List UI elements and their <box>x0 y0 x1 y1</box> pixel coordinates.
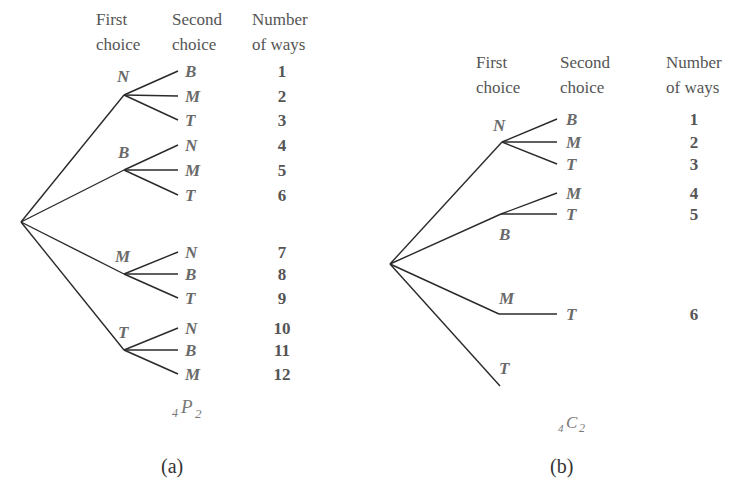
diagram-a-headers: First choice Second choice Number of way… <box>96 10 308 54</box>
first-branch-line <box>390 214 501 264</box>
number-of-ways: 4 <box>278 136 287 155</box>
first-branch-line <box>390 264 499 314</box>
number-of-ways: 8 <box>278 265 287 284</box>
header-first-choice-line2: choice <box>476 78 520 97</box>
first-branch-line <box>21 170 124 222</box>
number-of-ways: 3 <box>690 155 699 174</box>
number-of-ways: 1 <box>690 110 699 129</box>
first-choice-label: M <box>114 247 131 266</box>
diagram-b-headers: First choice Second choice Number of way… <box>476 53 722 97</box>
number-of-ways: 2 <box>278 87 287 106</box>
formula-a-prefix: 4 <box>172 406 178 420</box>
first-choice-label: B <box>117 143 129 162</box>
header-second-choice-line2: choice <box>560 78 604 97</box>
caption-a: (a) <box>161 455 183 478</box>
second-choice-label: M <box>565 184 582 203</box>
header-number-of-ways-line2: of ways <box>252 35 305 54</box>
first-choice-label: T <box>499 359 510 378</box>
first-choice-label: T <box>118 323 129 342</box>
first-branch-line <box>21 95 124 222</box>
second-choice-label: M <box>565 133 582 152</box>
number-of-ways: 5 <box>690 205 699 224</box>
formula-b-suffix: 2 <box>579 421 585 435</box>
second-choice-label: B <box>184 62 196 81</box>
number-of-ways: 6 <box>278 186 287 205</box>
number-of-ways: 7 <box>278 243 287 262</box>
second-choice-label: B <box>184 341 196 360</box>
second-branch-line <box>124 145 178 170</box>
header-number-of-ways-line1: Number <box>666 53 722 72</box>
formula-a-symbol: P <box>180 396 193 417</box>
second-choice-label: B <box>184 265 196 284</box>
first-branch-line <box>390 264 500 386</box>
number-of-ways: 12 <box>274 365 291 384</box>
first-choice-label: B <box>498 225 510 244</box>
number-of-ways: 4 <box>690 184 699 203</box>
formula-b-prefix: 4 <box>558 422 564 434</box>
second-branch-line <box>502 142 557 164</box>
tree-diagrams: First choice Second choice Number of way… <box>0 0 749 503</box>
second-choice-label: T <box>566 205 577 224</box>
first-choice-label: N <box>492 116 506 135</box>
second-choice-label: N <box>184 243 198 262</box>
caption-b: (b) <box>550 455 573 478</box>
second-choice-label: T <box>566 305 577 324</box>
header-second-choice-line1: Second <box>560 53 611 72</box>
second-choice-label: N <box>184 136 198 155</box>
number-of-ways: 1 <box>278 62 287 81</box>
header-number-of-ways-line1: Number <box>252 10 308 29</box>
second-branch-line <box>124 274 178 298</box>
second-branch-line <box>124 170 178 195</box>
number-of-ways: 11 <box>274 341 290 360</box>
second-choice-label: T <box>185 289 196 308</box>
first-branch-line <box>21 222 124 274</box>
first-choice-label: M <box>498 289 515 308</box>
second-branch-line <box>124 328 178 350</box>
header-number-of-ways-line2: of ways <box>666 78 719 97</box>
second-branch-line <box>124 252 178 274</box>
header-first-choice-line1: First <box>96 10 127 29</box>
second-choice-label: M <box>184 87 201 106</box>
formula-a-suffix: 2 <box>195 406 202 421</box>
number-of-ways: 10 <box>274 319 291 338</box>
header-first-choice-line1: First <box>476 53 507 72</box>
second-choice-label: B <box>565 110 577 129</box>
header-second-choice-line2: choice <box>172 35 216 54</box>
number-of-ways: 3 <box>278 111 287 130</box>
second-branch-line <box>124 95 178 120</box>
diagram-a-tree: NB1M2T3BN4M5T6MN7B8T9TN10B11M12 <box>21 62 291 384</box>
second-choice-label: T <box>185 111 196 130</box>
second-choice-label: T <box>566 155 577 174</box>
formula-b-symbol: C <box>566 413 578 432</box>
number-of-ways: 9 <box>278 289 287 308</box>
second-branch-line <box>124 350 178 374</box>
diagram-b-tree: NB1M2T3BM4T5MT6T <box>390 110 699 386</box>
number-of-ways: 5 <box>278 161 287 180</box>
second-branch-line <box>124 71 178 95</box>
number-of-ways: 6 <box>690 305 699 324</box>
first-choice-label: N <box>116 67 130 86</box>
second-choice-label: M <box>184 161 201 180</box>
header-first-choice-line2: choice <box>96 35 140 54</box>
first-branch-line <box>390 142 502 264</box>
second-choice-label: N <box>184 319 198 338</box>
header-second-choice-line1: Second <box>172 10 223 29</box>
number-of-ways: 2 <box>690 133 699 152</box>
first-branch-line <box>21 222 124 350</box>
second-choice-label: T <box>185 186 196 205</box>
second-branch-line <box>501 193 557 214</box>
second-choice-label: M <box>184 365 201 384</box>
second-branch-line <box>124 95 178 96</box>
second-branch-line <box>502 119 557 142</box>
